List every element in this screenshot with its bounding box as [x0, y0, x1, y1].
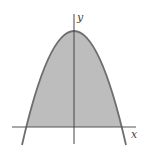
parabola-diagram: y x — [0, 0, 148, 153]
x-axis-label: x — [131, 128, 138, 141]
y-axis-label: y — [76, 11, 84, 24]
